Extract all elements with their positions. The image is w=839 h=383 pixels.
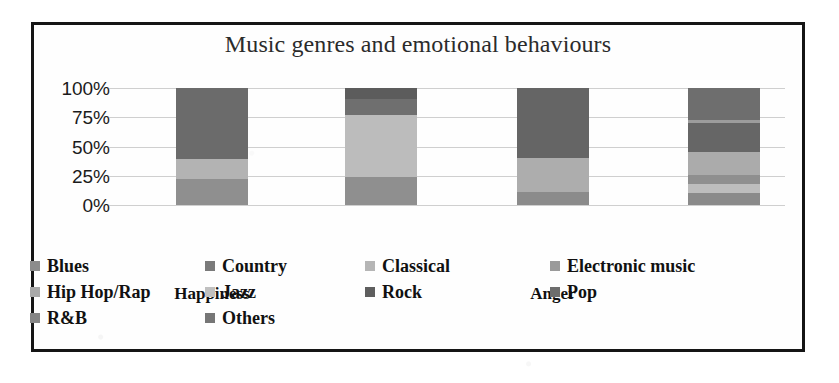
gridline	[109, 205, 785, 206]
y-axis: 100%75%50%25%0%	[42, 80, 110, 213]
legend-swatch-icon	[550, 261, 560, 271]
legend-item[interactable]: Jazz	[205, 282, 365, 303]
y-axis-tick-label: 0%	[83, 196, 110, 215]
legend-item[interactable]: Rock	[365, 282, 550, 303]
legend-swatch-icon	[205, 261, 215, 271]
legend-item[interactable]: Electronic music	[550, 256, 750, 277]
legend-row: Hip Hop/RapJazzRockPop	[30, 279, 760, 305]
chart-legend: BluesCountryClassicalElectronic musicHip…	[30, 253, 760, 331]
legend-swatch-icon	[205, 313, 215, 323]
legend-label: Country	[222, 256, 287, 277]
stacked-bar[interactable]	[517, 88, 589, 205]
legend-item[interactable]: R&B	[30, 308, 205, 329]
legend-item[interactable]: Pop	[550, 282, 750, 303]
stacked-bar[interactable]	[345, 88, 417, 205]
legend-swatch-icon	[550, 287, 560, 297]
bar-segment[interactable]	[688, 184, 760, 193]
bar-segment[interactable]	[176, 179, 248, 205]
stacked-bar[interactable]	[688, 88, 760, 205]
legend-label: Blues	[47, 256, 89, 277]
legend-swatch-icon	[30, 313, 40, 323]
bar-segment[interactable]	[517, 192, 589, 205]
legend-label: Electronic music	[567, 256, 695, 277]
legend-label: Jazz	[222, 282, 256, 303]
bar-segment[interactable]	[517, 88, 589, 158]
y-axis-tick-label: 75%	[72, 108, 110, 127]
legend-swatch-icon	[30, 261, 40, 271]
y-axis-tick-label: 100%	[61, 79, 110, 98]
bar-segment[interactable]	[345, 115, 417, 177]
chart-title: Music genres and emotional behaviours	[34, 31, 802, 58]
y-axis-tick-label: 25%	[72, 166, 110, 185]
bar-segment[interactable]	[688, 152, 760, 174]
legend-label: Pop	[567, 282, 597, 303]
legend-item[interactable]: Country	[205, 256, 365, 277]
legend-item[interactable]: Hip Hop/Rap	[30, 282, 205, 303]
plot-area: HappinessAnger	[109, 88, 785, 205]
legend-row: BluesCountryClassicalElectronic music	[30, 253, 760, 279]
legend-swatch-icon	[365, 287, 375, 297]
bar-segment[interactable]	[345, 177, 417, 205]
legend-swatch-icon	[30, 287, 40, 297]
legend-swatch-icon	[365, 261, 375, 271]
bar-segment[interactable]	[345, 99, 417, 115]
bar-segment[interactable]	[688, 123, 760, 152]
legend-item[interactable]: Classical	[365, 256, 550, 277]
bar-segment[interactable]	[688, 175, 760, 184]
stacked-bar[interactable]	[176, 88, 248, 205]
legend-label: R&B	[47, 308, 87, 329]
legend-label: Classical	[382, 256, 450, 277]
legend-swatch-icon	[205, 287, 215, 297]
bar-segment[interactable]	[176, 88, 248, 159]
y-axis-tick-label: 50%	[72, 137, 110, 156]
bar-segment[interactable]	[517, 158, 589, 192]
bar-segment[interactable]	[688, 193, 760, 205]
legend-label: Hip Hop/Rap	[47, 282, 151, 303]
legend-label: Rock	[382, 282, 422, 303]
legend-item[interactable]: Blues	[30, 256, 205, 277]
legend-label: Others	[222, 308, 275, 329]
bar-segment[interactable]	[176, 159, 248, 178]
legend-item[interactable]: Others	[205, 308, 365, 329]
legend-row: R&BOthers	[30, 305, 760, 331]
bar-segment[interactable]	[345, 88, 417, 99]
bar-segment[interactable]	[688, 88, 760, 120]
